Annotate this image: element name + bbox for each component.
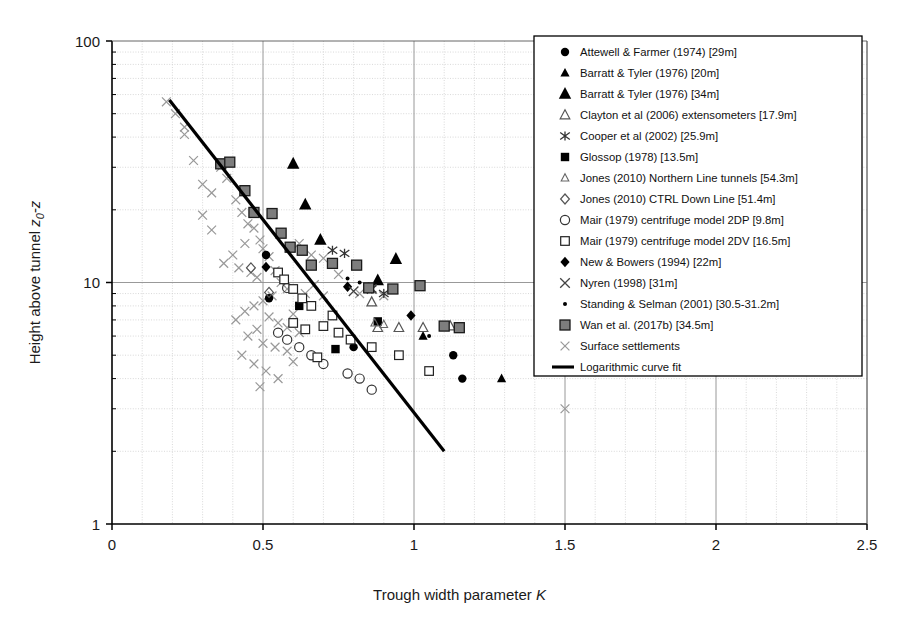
x-tick-label: 0 [108, 536, 116, 553]
legend-item: Mair (1979) centrifuge model 2DV [16.5m] [561, 235, 791, 247]
legend-box: Attewell & Farmer (1974) [29m]Barratt & … [534, 36, 862, 376]
x-tick-label: 2 [712, 536, 720, 553]
legend-label: Jones (2010) CTRL Down Line [51.4m] [580, 193, 776, 205]
y-tick-label: 1 [92, 516, 100, 533]
legend-label: Surface settlements [580, 340, 680, 352]
y-tick-label: 100 [75, 33, 100, 50]
legend-item: Jones (2010) Northern Line tunnels [54.3… [561, 172, 798, 184]
axis-titles-layer: Trough width parameter KHeight above tun… [26, 200, 547, 603]
legend-item: Glossop (1978) [13.5m] [561, 151, 698, 163]
x-tick-label: 1.5 [555, 536, 576, 553]
legend-label: Standing & Selman (2001) [30.5-31.2m] [580, 298, 779, 310]
series-group [274, 268, 434, 375]
scatter-plot-svg: 00.511.522.5110100 Attewell & Farmer (19… [0, 0, 914, 617]
y-tick-label: 10 [83, 274, 100, 291]
legend-item: Cooper et al (2002) [25.9m] [560, 130, 718, 142]
x-tick-label: 1 [410, 536, 418, 553]
legend-label: Clayton et al (2006) extensometers [17.9… [580, 109, 797, 121]
fit-line-layer [169, 100, 444, 451]
legend-label: Nyren (1998) [31m] [580, 277, 677, 289]
legend-item: Attewell & Farmer (1974) [29m] [561, 46, 737, 58]
x-tick-label: 0.5 [253, 536, 274, 553]
legend-label: Jones (2010) Northern Line tunnels [54.3… [580, 172, 798, 184]
series-group [162, 97, 569, 413]
legend-label: Logarithmic curve fit [580, 361, 682, 373]
legend-item: Barratt & Tyler (1976) [20m] [560, 67, 719, 79]
logarithmic-fit-line [169, 100, 444, 451]
legend-item: Barratt & Tyler (1976) [34m] [559, 87, 719, 100]
x-axis-title: Trough width parameter K [373, 586, 547, 603]
legend-item: Jones (2010) CTRL Down Line [51.4m] [561, 193, 776, 205]
legend-label: Cooper et al (2002) [25.9m] [580, 130, 718, 142]
legend-label: Glossop (1978) [13.5m] [580, 151, 698, 163]
legend-label: Barratt & Tyler (1976) [34m] [580, 88, 719, 100]
legend-label: Wan et al. (2017b) [34.5m] [580, 319, 713, 331]
legend-item: Mair (1979) centrifuge model 2DP [9.8m] [560, 214, 783, 226]
x-tick-label: 2.5 [857, 536, 878, 553]
legend-label: Attewell & Farmer (1974) [29m] [580, 46, 737, 58]
legend-item: Wan et al. (2017b) [34.5m] [560, 319, 713, 331]
data-points-layer [162, 97, 569, 413]
chart-figure: 00.511.522.5110100 Attewell & Farmer (19… [0, 0, 914, 617]
legend-label: Barratt & Tyler (1976) [20m] [580, 67, 719, 79]
y-axis-title: Height above tunnel z0-z [26, 200, 46, 364]
series-group [287, 157, 402, 285]
legend-label: Mair (1979) centrifuge model 2DV [16.5m] [580, 235, 790, 247]
legend-item: New & Bowers (1994) [22m] [560, 256, 721, 268]
legend-label: New & Bowers (1994) [22m] [580, 256, 721, 268]
legend-item: Standing & Selman (2001) [30.5-31.2m] [563, 298, 779, 310]
legend-item: Clayton et al (2006) extensometers [17.9… [560, 109, 796, 121]
legend-label: Mair (1979) centrifuge model 2DP [9.8m] [580, 214, 784, 226]
